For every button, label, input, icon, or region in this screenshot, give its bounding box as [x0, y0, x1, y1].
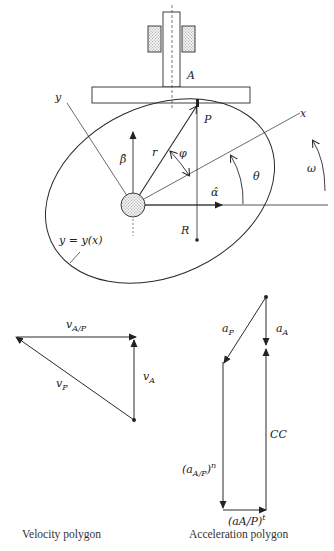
- velocity-polygon-caption: Velocity polygon: [22, 528, 101, 541]
- a-A-label: aA: [276, 322, 289, 337]
- radius-label: r: [152, 146, 158, 159]
- cc-label: CC: [270, 428, 287, 441]
- contact-point-label: P: [203, 113, 212, 126]
- acceleration-polygon: aP aA CC (aA/P)n (aA/P)t Acceleration po…: [182, 295, 289, 541]
- alpha-hat-label: α̂: [211, 186, 219, 199]
- a-P-label: aP: [222, 322, 235, 337]
- a-AP-normal-label: (aA/P)n: [182, 461, 216, 478]
- omega-label: ω: [307, 162, 316, 175]
- follower-face-plate: [92, 87, 250, 103]
- mechanism: A P y x r φ θ ω α̂ β̂ R y = y(x): [15, 5, 328, 319]
- radius-of-curvature-label: R: [180, 224, 189, 237]
- cam-profile-label: y = y(x): [58, 234, 102, 247]
- theta-label: θ: [253, 170, 260, 183]
- v-P-label: vP: [56, 377, 68, 392]
- v-A-label: vA: [143, 370, 155, 385]
- velocity-polygon: vA/P vA vP Velocity polygon: [16, 318, 155, 541]
- contact-point-marker: [196, 99, 199, 107]
- cam-profile-leader: [70, 252, 80, 263]
- y-axis-label: y: [54, 91, 62, 104]
- cam-hub: [121, 193, 145, 217]
- v-AP-label: vA/P: [66, 318, 87, 333]
- acceleration-polygon-caption: Acceleration polygon: [189, 528, 289, 541]
- follower-label: A: [186, 69, 195, 82]
- right-guide-block: [182, 26, 195, 52]
- velocity-pole-point: [132, 418, 136, 422]
- v-P-vector: [16, 337, 134, 420]
- a-AP-tangent-label: (aA/P)t: [228, 513, 266, 528]
- theta-angle-arc: [231, 156, 243, 204]
- cam-follower-diagram: A P y x r φ θ ω α̂ β̂ R y = y(x) vA/P vA…: [0, 0, 334, 551]
- beta-hat-label: β̂: [119, 153, 126, 166]
- x-axis-label: x: [300, 107, 307, 120]
- curvature-center-point: [195, 238, 199, 242]
- follower-stem: [163, 12, 180, 87]
- left-guide-block: [148, 26, 161, 52]
- phi-label: φ: [179, 147, 187, 160]
